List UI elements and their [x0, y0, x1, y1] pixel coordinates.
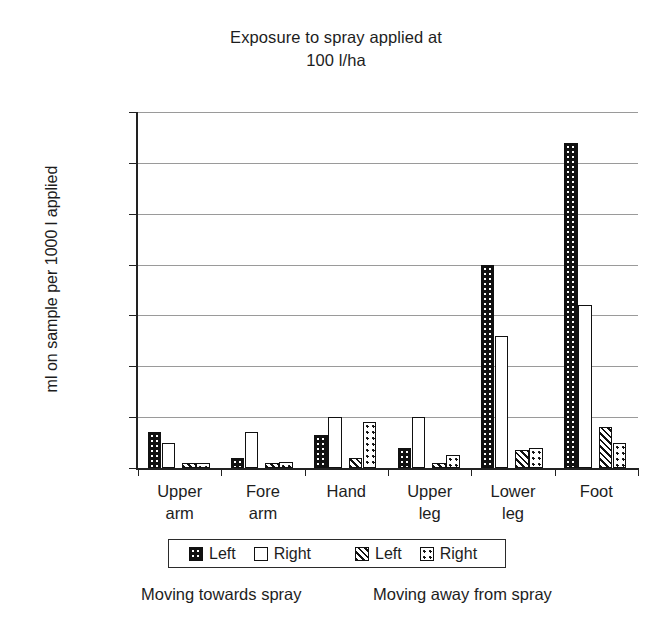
- x-category-label-line: leg: [471, 502, 554, 524]
- bar-group: [305, 112, 388, 468]
- chart-title: Exposure to spray applied at 100 l/ha: [0, 26, 672, 72]
- plot-area: 010203040506070 UpperarmForearmHandUpper…: [136, 112, 638, 470]
- bar: [231, 458, 245, 468]
- x-category-label-line: Upper: [138, 480, 221, 502]
- x-tick-mark: [638, 468, 639, 476]
- y-axis-title: ml on sample per 1000 l applied: [43, 119, 61, 439]
- x-category-label-line: Fore: [221, 480, 304, 502]
- x-category-label: Lowerleg: [471, 480, 554, 524]
- bar: [245, 432, 259, 468]
- legend-swatch-dark-dotted-icon: [189, 547, 203, 561]
- x-category-label-line: Hand: [305, 480, 388, 502]
- bar: [349, 458, 363, 468]
- bar-series-layer: [138, 112, 638, 468]
- bar: [363, 422, 377, 468]
- chart-legend: LeftRightLeftRight: [168, 539, 506, 568]
- bar: [578, 305, 592, 468]
- bar-group: [221, 112, 304, 468]
- bar: [495, 336, 509, 468]
- x-tick-mark: [555, 468, 556, 476]
- x-category-label: Foot: [555, 480, 638, 502]
- x-category-label-line: Lower: [471, 480, 554, 502]
- bar: [182, 463, 196, 468]
- x-category-label-line: arm: [138, 502, 221, 524]
- legend-item: Left: [355, 545, 402, 563]
- y-tick-mark-0: [129, 468, 138, 469]
- bar: [481, 265, 495, 468]
- bar: [515, 450, 529, 468]
- bar: [599, 427, 613, 468]
- y-tick-mark-20: [129, 366, 138, 367]
- legend-swatch-hatched-icon: [355, 547, 369, 561]
- bar: [446, 455, 460, 468]
- bar-group: [555, 112, 638, 468]
- y-tick-mark-60: [129, 163, 138, 164]
- x-category-label-line: arm: [221, 502, 304, 524]
- x-tick-mark: [388, 468, 389, 476]
- bar: [314, 435, 328, 468]
- y-tick-mark-30: [129, 315, 138, 316]
- bar: [162, 443, 176, 468]
- bar: [412, 417, 426, 468]
- legend-item: Right: [254, 545, 311, 563]
- bar-group: [138, 112, 221, 468]
- chart-title-line-2: 100 l/ha: [0, 49, 672, 72]
- bar: [398, 448, 412, 468]
- legend-swatch-white-icon: [254, 547, 268, 561]
- bar: [432, 463, 446, 468]
- legend-label: Right: [274, 545, 311, 563]
- x-category-label: Hand: [305, 480, 388, 502]
- y-tick-mark-40: [129, 265, 138, 266]
- legend-label: Left: [375, 545, 402, 563]
- x-tick-mark: [471, 468, 472, 476]
- x-tick-mark: [305, 468, 306, 476]
- y-tick-mark-70: [129, 112, 138, 113]
- chart-figure: Exposure to spray applied at 100 l/ha ml…: [0, 0, 672, 632]
- bar: [529, 448, 543, 468]
- legend-item: Right: [420, 545, 477, 563]
- bar: [265, 463, 279, 468]
- bar: [613, 443, 627, 468]
- caption-moving-away-from-spray: Moving away from spray: [373, 585, 552, 604]
- y-tick-mark-50: [129, 214, 138, 215]
- legend-item: Left: [189, 545, 236, 563]
- legend-swatch-light-dotted-icon: [420, 547, 434, 561]
- bar: [148, 432, 162, 468]
- x-tick-mark: [221, 468, 222, 476]
- x-category-label: Upperleg: [388, 480, 471, 524]
- bar: [328, 417, 342, 468]
- caption-moving-towards-spray: Moving towards spray: [141, 585, 301, 604]
- bar: [279, 462, 293, 468]
- legend-label: Right: [440, 545, 477, 563]
- x-tick-mark: [138, 468, 139, 476]
- bar: [564, 143, 578, 468]
- x-category-label-line: Upper: [388, 480, 471, 502]
- legend-label: Left: [209, 545, 236, 563]
- x-category-label: Upperarm: [138, 480, 221, 524]
- chart-title-line-1: Exposure to spray applied at: [0, 26, 672, 49]
- x-category-label-line: Foot: [555, 480, 638, 502]
- x-category-label: Forearm: [221, 480, 304, 524]
- x-category-label-line: leg: [388, 502, 471, 524]
- bar-group: [471, 112, 554, 468]
- bar: [196, 463, 210, 468]
- y-tick-mark-10: [129, 417, 138, 418]
- bar-group: [388, 112, 471, 468]
